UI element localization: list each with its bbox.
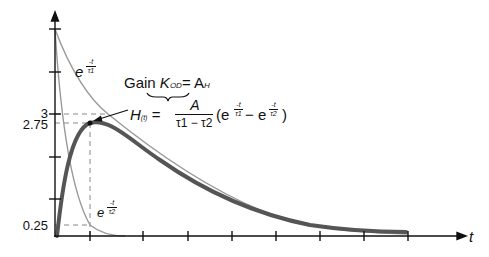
peak-dot	[88, 121, 93, 126]
gain-brace	[147, 93, 189, 101]
fast-decay-exp-num: -t	[106, 199, 118, 206]
formula-exp2-den: τ2	[268, 110, 279, 117]
formula-minus: − e	[245, 106, 266, 123]
x-axis-label: t	[469, 228, 473, 245]
slow-decay-label: e	[75, 63, 83, 80]
h-curve	[57, 122, 406, 236]
formula-denominator: τ1 − τ2	[176, 116, 213, 130]
gain-label: Gain KOD= AH	[124, 74, 210, 91]
fast-decay-exp-den: τ2	[106, 208, 118, 215]
y-axis-arrow	[52, 12, 59, 21]
pointer-arrowhead	[93, 116, 103, 122]
plot-graphics	[0, 0, 489, 257]
slow-decay-exp-num: -t	[85, 58, 97, 65]
y-label-0-25: 0.25	[8, 218, 48, 233]
formula-exp1-den: τ1	[233, 110, 244, 117]
y-label-2-75: 2.75	[8, 117, 48, 132]
formula-exp1-num: -t	[233, 101, 244, 108]
fast-decay-label: e	[97, 205, 104, 220]
slow-decay-exp-den: τ1	[85, 67, 97, 74]
x-axis-arrow	[457, 233, 466, 240]
formula-numerator: A	[186, 97, 204, 113]
formula-exp2-num: -t	[268, 101, 279, 108]
formula-fraction-bar	[175, 114, 213, 115]
formula-paren-close: )	[282, 106, 287, 123]
h-formula-lhs: H(t) =	[130, 106, 160, 123]
diagram-canvas: 3 2.75 0.25 t e -t τ1 e -t τ2 Gain KOD= …	[0, 0, 489, 257]
formula-paren-open: (e	[216, 106, 229, 123]
